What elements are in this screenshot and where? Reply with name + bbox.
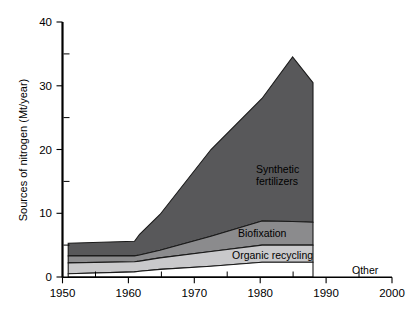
x-tick-label-1970: 1970 (182, 287, 208, 299)
y-tick-label-0: 0 (46, 271, 52, 283)
series-label-synthetic-fertilizers-line2: fertilizers (256, 175, 298, 187)
x-tick-label-1960: 1960 (116, 287, 142, 299)
x-tick-label-1950: 1950 (50, 287, 76, 299)
y-tick-label-10: 10 (39, 207, 52, 219)
y-axis-title: Sources of nitrogen (Mt/year) (17, 79, 29, 221)
series-label-biofixation: Biofixation (238, 227, 287, 239)
area-chart-svg: 40 30 20 10 0 1950 1960 1970 1980 1990 2… (0, 0, 420, 313)
x-tick-label-2000: 2000 (379, 287, 405, 299)
y-tick-label-20: 20 (39, 144, 52, 156)
series-label-other: Other (352, 264, 379, 276)
x-tick-label-1980: 1980 (247, 287, 273, 299)
y-tick-label-30: 30 (39, 80, 52, 92)
series-label-organic-recycling: Organic recycling (232, 249, 313, 261)
x-tick-label-1990: 1990 (313, 287, 339, 299)
chart-figure: 40 30 20 10 0 1950 1960 1970 1980 1990 2… (0, 0, 420, 313)
series-label-synthetic-fertilizers-line1: Synthetic (256, 163, 299, 175)
y-tick-label-40: 40 (39, 16, 52, 28)
